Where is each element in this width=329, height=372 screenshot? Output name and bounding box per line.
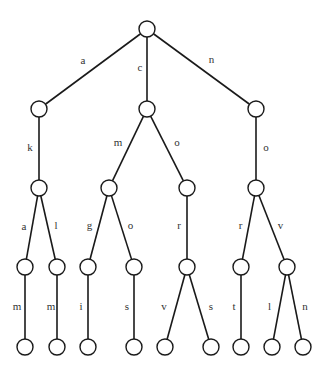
edge-label: g xyxy=(87,219,93,231)
tree-node-novn xyxy=(295,339,311,355)
tree-node-novl xyxy=(264,339,280,355)
edge-label: o xyxy=(128,219,134,231)
edge-ak-akl xyxy=(41,196,55,259)
tree-node-cmo xyxy=(126,259,142,275)
tree-node-aka xyxy=(17,259,33,275)
tree-node-n xyxy=(248,101,264,117)
edge-label: t xyxy=(232,300,235,312)
edge-label: v xyxy=(278,219,284,231)
edge-nov-novn xyxy=(289,275,302,339)
tree-node-cmos xyxy=(126,339,142,355)
trie-diagram: acnkmooalgorrvmmisvstln xyxy=(0,0,329,372)
edge-label: l xyxy=(268,300,271,312)
tree-node-co xyxy=(179,180,195,196)
edge-c-co xyxy=(151,116,184,181)
edge-label: s xyxy=(125,300,129,312)
edge-root-n xyxy=(153,34,249,105)
tree-node-corv xyxy=(157,339,173,355)
tree-node-nort xyxy=(233,339,249,355)
edge-label: r xyxy=(177,219,181,231)
edge-label: o xyxy=(174,136,180,148)
root-node xyxy=(139,21,155,37)
edge-label: r xyxy=(239,219,243,231)
edge-label: n xyxy=(209,53,215,65)
tree-node-cm xyxy=(101,180,117,196)
edge-label: a xyxy=(81,54,86,66)
tree-node-cors xyxy=(203,339,219,355)
tree-node-cmgi xyxy=(80,339,96,355)
tree-node-ak xyxy=(31,180,47,196)
tree-node-nor xyxy=(233,259,249,275)
edge-label: m xyxy=(114,136,123,148)
edge-root-a xyxy=(45,34,140,104)
edge-ak-aka xyxy=(26,196,37,259)
tree-node-a xyxy=(31,101,47,117)
edge-label: l xyxy=(54,219,57,231)
tree-node-c xyxy=(139,101,155,117)
tree-node-cmg xyxy=(80,259,96,275)
tree-node-akam xyxy=(17,339,33,355)
edge-label: s xyxy=(209,300,213,312)
tree-node-aklm xyxy=(49,339,65,355)
edge-nov-novl xyxy=(273,275,285,339)
edge-cor-corv xyxy=(167,275,185,340)
edge-label: v xyxy=(161,300,167,312)
tree-node-nov xyxy=(279,259,295,275)
edge-cm-cmg xyxy=(90,196,107,260)
edge-cor-cors xyxy=(189,275,208,340)
edge-label: k xyxy=(27,141,33,153)
edge-label: c xyxy=(138,61,143,73)
edge-label: m xyxy=(13,300,22,312)
edge-label: n xyxy=(302,300,308,312)
tree-node-no xyxy=(248,180,264,196)
tree-node-akl xyxy=(49,259,65,275)
edge-label: i xyxy=(79,300,82,312)
edge-label: a xyxy=(22,220,27,232)
edge-c-cm xyxy=(112,116,143,181)
edge-label: m xyxy=(47,300,56,312)
edge-no-nor xyxy=(242,196,254,259)
tree-node-cor xyxy=(179,259,195,275)
edge-label: o xyxy=(263,141,269,153)
